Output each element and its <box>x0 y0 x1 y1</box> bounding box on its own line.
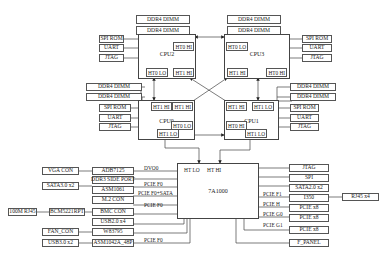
m2-con-box: M.2 CON <box>92 196 134 204</box>
cpu0-ht1-hi-port: HT1 HI <box>151 102 172 111</box>
rj45-100m-label: 100M RJ45 <box>9 209 35 215</box>
spi-rom-label: SPI ROM <box>306 36 328 42</box>
cpu1-ht0-hi-port: HT0 HI <box>226 121 247 130</box>
cpu1-ddr4-dimm-1: DDR4 DIMM <box>290 83 336 91</box>
cpu1-ddr4-dimm-2: DDR4 DIMM <box>290 93 336 101</box>
cpu2-ht0-lo-port: HT0 LO <box>146 68 168 77</box>
cpu0-ddr4-dimm-1: DDR4 DIMM <box>86 83 142 91</box>
bridge-ht-lo-label: HT LO <box>184 168 200 173</box>
cpu2-uart: UART <box>99 44 124 52</box>
spi-rom-label: SPI ROM <box>100 36 122 42</box>
pcie-x8-3-label: PCIE x8 <box>299 227 318 233</box>
cpu2-spi-rom: SPI ROM <box>99 35 124 43</box>
bus-label-pcie-f1: PCIE F1 <box>263 192 282 197</box>
ddr-label: DDR4 DIMM <box>238 28 270 34</box>
fan-con-label: FAN_CON <box>48 229 73 235</box>
usb3-box: USB3.0 x2 <box>42 239 79 247</box>
cpu0-jtag: JTAG <box>99 123 131 131</box>
pcie-x8-1-box: PCIE x8 <box>289 204 329 212</box>
bcm5221-box: BCM5221RPT <box>49 208 85 216</box>
i350-box: I350 <box>289 194 329 202</box>
sata2-label: SATA2.0 x2 <box>295 185 323 191</box>
rj45-x4-box: RJ45 x4 <box>342 193 379 201</box>
cpu2-block: CPU2 HT0 HI HT0 LO HT1 HI <box>138 34 196 79</box>
spi-box: SPI <box>289 174 329 182</box>
cpu2-ddr4-dimm-1: DDR4 DIMM <box>136 15 190 24</box>
rj45-x4-label: RJ45 x4 <box>351 194 370 200</box>
jtag-label: JTAG <box>105 55 118 61</box>
ddr-label: DDR4 DIMM <box>147 28 179 34</box>
ddr-label: DDR4 DIMM <box>98 84 130 90</box>
asm1061-label: ASM1061 <box>101 187 124 193</box>
cpu0-ht1-lo-port: HT1 LO <box>157 129 179 138</box>
f-panel-label: F_PANEL <box>297 240 320 246</box>
jtag-label: JTAG <box>298 124 311 130</box>
bridge-label: 7A1000 <box>178 188 258 194</box>
bus-label-pcie-f0-bmc: PCIE F0 <box>144 203 163 208</box>
bridge-7a1000-block: HT LO HT HI 7A1000 <box>177 163 259 219</box>
bus-label-pcie-g1: PCIE G1 <box>263 223 283 228</box>
pcie-x8-3-box: PCIE x8 <box>289 226 329 234</box>
adb7125-label: ADB7125 <box>102 168 125 174</box>
cpu3-label: CPU3 <box>225 51 289 57</box>
i350-label: I350 <box>304 195 314 201</box>
bmc-con-box: BMC CON <box>92 208 134 216</box>
cpu2-ht0-hi-port: HT0 HI <box>173 42 194 51</box>
cpu2-label: CPU2 <box>139 51 195 57</box>
vga-con-label: VGA CON <box>48 168 73 174</box>
usb3-label: USB3.0 x2 <box>48 240 73 246</box>
cpu2-ht1-hi-port: HT1 HI <box>173 68 194 77</box>
jtag-7a-box: JTAG <box>289 164 329 172</box>
bcm5221-label: BCM5221RPT <box>50 209 84 215</box>
jtag-label: JTAG <box>108 124 121 130</box>
pcie-x8-2-label: PCIE x8 <box>299 215 318 221</box>
jtag-label: JTAG <box>310 55 323 61</box>
ddr-label: DDR4 DIMM <box>238 17 270 23</box>
cpu1-ht1-hi-port: HT1 HI <box>226 102 247 111</box>
cpu0-uart: UART <box>99 114 131 122</box>
bus-label-pcie-f0-sata: PCIE F0 <box>144 182 163 187</box>
bus-label-pcie-h: PCIE H <box>263 202 280 207</box>
cpu3-ht0-hi-port: HT0 HI <box>266 68 287 77</box>
asm1061-box: ASM1061 <box>92 186 134 194</box>
sata2-box: SATA2.0 x2 <box>289 184 329 192</box>
uart-label: UART <box>297 115 312 121</box>
fan-con-box: FAN_CON <box>42 228 79 236</box>
cpu1-ht1-lo-port: HT1 LO <box>252 102 274 111</box>
asm1042a-label: ASM1042A_48P <box>94 240 133 246</box>
adb7125-box: ADB7125 <box>92 167 134 175</box>
cpu1-block: CPU1 HT1 HI HT1 LO HT0 HI HT1 LO <box>224 100 279 140</box>
cpu3-ht1-hi-port: HT1 HI <box>227 68 248 77</box>
cpu0-block: CPU0 HT1 HI HT1 HI HT0 LO HT1 LO <box>138 100 195 140</box>
bus-label-pcie-f0-m2: PCIE F0+SATA <box>138 191 173 196</box>
ddr3-side-port-label: DDR3 SIDE PORT <box>91 177 135 183</box>
cpu3-ddr4-dimm-1: DDR4 DIMM <box>227 15 281 24</box>
bridge-ht-hi-label: HT HI <box>207 168 221 173</box>
ddr-label: DDR4 DIMM <box>297 84 329 90</box>
ddr-label: DDR4 DIMM <box>147 17 179 23</box>
pcie-x8-1-label: PCIE x8 <box>299 205 318 211</box>
cpu3-spi-rom: SPI ROM <box>302 35 332 43</box>
ddr-label: DDR4 DIMM <box>297 94 329 100</box>
usb2-label: USB2.0 x4 <box>101 219 126 225</box>
system-block-diagram: DDR4 DIMM DDR4 DIMM SPI ROM UART JTAG CP… <box>0 0 388 258</box>
ddr-label: DDR4 DIMM <box>98 94 130 100</box>
uart-label: UART <box>108 115 123 121</box>
cpu0-ddr4-dimm-2: DDR4 DIMM <box>86 93 142 101</box>
bus-label-pcie-g0: PCIE G0 <box>263 212 283 217</box>
w83795-label: W83795 <box>103 229 122 235</box>
spi-rom-label: SPI ROM <box>104 105 126 111</box>
bmc-con-label: BMC CON <box>100 209 126 215</box>
cpu0-spi-rom: SPI ROM <box>99 104 131 112</box>
usb2-box: USB2.0 x4 <box>92 218 134 226</box>
ddr3-side-port-box: DDR3 SIDE PORT <box>92 176 134 184</box>
sata3-box: SATA3.0 x2 <box>42 182 79 190</box>
bus-label-pcie-f0-usb3: PCIE F0 <box>144 238 163 243</box>
pcie-x8-2-box: PCIE x8 <box>289 214 329 222</box>
cpu2-jtag: JTAG <box>99 54 124 62</box>
jtag-7a-label: JTAG <box>302 165 315 171</box>
cpu1-ht1-lo-port-2: HT1 LO <box>245 129 267 138</box>
spi-rom-label: SPI ROM <box>293 105 315 111</box>
cpu1-uart: UART <box>290 114 319 122</box>
m2-con-label: M.2 CON <box>102 197 124 203</box>
